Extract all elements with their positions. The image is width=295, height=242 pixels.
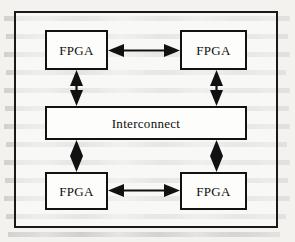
node-label: FPGA: [196, 185, 230, 198]
node-label: FPGA: [59, 185, 93, 198]
node-fpga-top-left: FPGA: [45, 30, 108, 70]
node-label: FPGA: [59, 44, 93, 57]
fpga-interconnect-diagram: FPGA FPGA Interconnect FPGA FPGA: [0, 0, 295, 242]
node-fpga-bottom-right: FPGA: [180, 172, 247, 210]
node-fpga-top-right: FPGA: [180, 30, 247, 70]
node-label: FPGA: [196, 44, 230, 57]
node-fpga-bottom-left: FPGA: [45, 172, 108, 210]
node-interconnect: Interconnect: [45, 106, 247, 140]
node-label: Interconnect: [112, 117, 181, 130]
